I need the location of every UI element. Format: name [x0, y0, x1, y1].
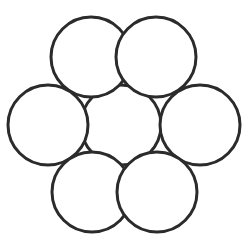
circle-packing-canvas: Center circleTop-left circleTop-right ci… [0, 0, 252, 244]
circle-top-right: Top-right circle [116, 17, 196, 97]
circle-group: Center circleTop-left circleTop-right ci… [8, 17, 240, 232]
circle-left: Left circle [8, 85, 88, 165]
circle-right: Right circle [160, 85, 240, 165]
circle-bottom-right: Bottom-right circle [117, 152, 197, 232]
circle-packing-figure: Center circleTop-left circleTop-right ci… [0, 0, 252, 244]
